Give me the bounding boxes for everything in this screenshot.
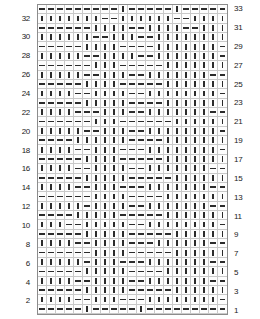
- purl-stitch-icon: [210, 168, 215, 170]
- stitch-cell: [92, 80, 101, 89]
- stitch-cell: [47, 145, 56, 154]
- stitch-cell: [155, 80, 164, 89]
- knit-stitch-icon: [104, 278, 106, 284]
- stitch-cell: [200, 89, 209, 98]
- stitch-cell: [218, 248, 227, 257]
- purl-stitch-icon: [147, 55, 152, 57]
- knit-stitch-icon: [185, 287, 187, 293]
- stitch-cell: [146, 24, 155, 33]
- knit-stitch-icon: [194, 212, 196, 218]
- stitch-cell: [101, 136, 110, 145]
- stitch-cell: [128, 5, 137, 14]
- knit-stitch-icon: [95, 184, 97, 190]
- knit-stitch-icon: [77, 203, 79, 209]
- stitch-cell: [146, 99, 155, 108]
- purl-stitch-icon: [84, 149, 89, 151]
- stitch-cell: [155, 183, 164, 192]
- purl-stitch-icon: [156, 83, 161, 85]
- stitch-cell: [218, 71, 227, 80]
- purl-stitch-icon: [57, 8, 62, 10]
- knit-stitch-icon: [122, 231, 124, 237]
- stitch-cell: [191, 89, 200, 98]
- purl-stitch-icon: [84, 121, 89, 123]
- stitch-cell: [92, 99, 101, 108]
- purl-stitch-icon: [48, 196, 53, 198]
- stitch-cell: [164, 80, 173, 89]
- purl-stitch-icon: [39, 139, 44, 141]
- stitch-cell: [47, 33, 56, 42]
- knit-stitch-icon: [212, 25, 214, 31]
- stitch-cell: [164, 24, 173, 33]
- stitch-cell: [191, 258, 200, 267]
- stitch-cell: [119, 239, 128, 248]
- stitch-cell: [173, 305, 182, 314]
- stitch-cell: [191, 211, 200, 220]
- stitch-cell: [83, 174, 92, 183]
- stitch-cell: [146, 174, 155, 183]
- stitch-cell: [155, 267, 164, 276]
- stitch-cell: [101, 248, 110, 257]
- purl-stitch-icon: [39, 271, 44, 273]
- stitch-cell: [110, 248, 119, 257]
- purl-stitch-icon: [93, 8, 98, 10]
- row-number-left: 2: [26, 296, 30, 305]
- knit-stitch-icon: [212, 175, 214, 181]
- row-number-left: 24: [22, 89, 30, 98]
- stitch-cell: [119, 80, 128, 89]
- purl-stitch-icon: [66, 27, 71, 29]
- stitch-cell: [218, 305, 227, 314]
- purl-stitch-icon: [210, 205, 215, 207]
- stitch-cell: [209, 202, 218, 211]
- stitch-cell: [83, 5, 92, 14]
- purl-stitch-icon: [39, 65, 44, 67]
- stitch-grid: [38, 5, 227, 314]
- stitch-cell: [47, 155, 56, 164]
- stitch-cell: [110, 211, 119, 220]
- stitch-cell: [74, 5, 83, 14]
- stitch-cell: [101, 145, 110, 154]
- knit-stitch-icon: [149, 91, 151, 97]
- purl-stitch-icon: [138, 214, 143, 216]
- stitch-cell: [74, 155, 83, 164]
- stitch-cell: [137, 33, 146, 42]
- stitch-cell: [101, 52, 110, 61]
- purl-stitch-icon: [39, 121, 44, 123]
- stitch-cell: [200, 202, 209, 211]
- stitch-cell: [92, 248, 101, 257]
- knit-stitch-icon: [95, 165, 97, 171]
- stitch-cell: [74, 61, 83, 70]
- stitch-cell: [83, 80, 92, 89]
- purl-stitch-icon: [147, 121, 152, 123]
- knit-stitch-icon: [185, 297, 187, 303]
- purl-stitch-icon: [48, 8, 53, 10]
- stitch-cell: [191, 42, 200, 51]
- knit-stitch-icon: [203, 119, 205, 125]
- stitch-cell: [65, 61, 74, 70]
- purl-stitch-icon: [138, 55, 143, 57]
- purl-stitch-icon: [66, 214, 71, 216]
- stitch-cell: [119, 248, 128, 257]
- knit-stitch-icon: [185, 250, 187, 256]
- knit-stitch-icon: [212, 250, 214, 256]
- knit-stitch-icon: [149, 25, 151, 31]
- knit-stitch-icon: [203, 165, 205, 171]
- purl-stitch-icon: [129, 130, 134, 132]
- knit-stitch-icon: [176, 297, 178, 303]
- knit-stitch-icon: [41, 203, 43, 209]
- row-number-right: 23: [234, 98, 242, 107]
- stitch-cell: [74, 99, 83, 108]
- knit-stitch-icon: [68, 278, 70, 284]
- knit-stitch-icon: [113, 231, 115, 237]
- stitch-cell: [119, 220, 128, 229]
- purl-stitch-icon: [84, 186, 89, 188]
- knit-stitch-icon: [176, 175, 178, 181]
- stitch-cell: [218, 145, 227, 154]
- knit-stitch-icon: [50, 91, 52, 97]
- stitch-cell: [137, 295, 146, 304]
- stitch-cell: [128, 211, 137, 220]
- knit-stitch-icon: [50, 240, 52, 246]
- stitch-cell: [191, 33, 200, 42]
- purl-stitch-icon: [120, 149, 125, 151]
- stitch-cell: [218, 80, 227, 89]
- knit-stitch-icon: [203, 34, 205, 40]
